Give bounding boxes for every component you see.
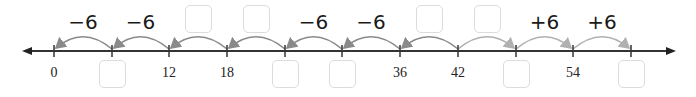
tick-answer-box[interactable] (99, 60, 126, 88)
jump-label: +6 (587, 12, 616, 32)
jump-label: +6 (530, 12, 559, 32)
jump-label: −6 (68, 12, 97, 32)
tick-label: 36 (393, 66, 407, 80)
tick-answer-box[interactable] (618, 60, 645, 88)
jump-label: −6 (126, 12, 155, 32)
jump-arc (458, 37, 514, 49)
tick-label: 18 (220, 66, 234, 80)
jump-arc (114, 37, 169, 49)
right-arrow-icon (666, 47, 676, 55)
tick-label: 12 (162, 66, 176, 80)
jump-arc (344, 37, 400, 49)
jump-arc (516, 37, 571, 49)
tick-label: 0 (51, 66, 58, 80)
jump-answer-box[interactable] (416, 5, 443, 33)
tick-answer-box[interactable] (503, 60, 530, 88)
jump-arc (229, 37, 285, 49)
number-line-diagram: −6−6−6−6+6+601218364254 (0, 0, 696, 97)
jump-arc (171, 37, 227, 49)
jump-label: −6 (299, 12, 328, 32)
jump-answer-box[interactable] (243, 5, 270, 33)
jump-arc (402, 37, 458, 49)
tick-answer-box[interactable] (272, 60, 299, 88)
jump-label: −6 (356, 12, 385, 32)
left-arrow-icon (22, 47, 32, 55)
jump-arc (573, 37, 629, 49)
jump-answer-box[interactable] (474, 5, 501, 33)
jump-arc (287, 37, 342, 49)
tick-label: 42 (451, 66, 465, 80)
tick-label: 54 (566, 66, 580, 80)
jump-answer-box[interactable] (185, 5, 212, 33)
jump-arc (56, 37, 112, 49)
tick-answer-box[interactable] (329, 60, 356, 88)
